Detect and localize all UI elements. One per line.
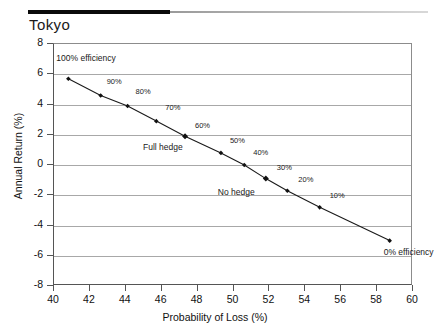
data-point-label: 0% efficiency bbox=[384, 247, 434, 257]
data-point[interactable] bbox=[387, 238, 392, 243]
header-rule-dark bbox=[28, 10, 170, 14]
x-tick-label: 50 bbox=[220, 293, 246, 305]
data-point-label: 20% bbox=[298, 175, 313, 184]
data-point[interactable] bbox=[154, 119, 159, 124]
x-tick bbox=[197, 285, 198, 291]
y-tick-label: -8 bbox=[17, 278, 43, 290]
header-rule-light bbox=[170, 11, 428, 13]
y-tick-label: -6 bbox=[17, 248, 43, 260]
page-title: Tokyo bbox=[29, 16, 70, 33]
data-point-label: 80% bbox=[136, 87, 151, 96]
x-tick bbox=[125, 285, 126, 291]
x-tick-label: 60 bbox=[399, 293, 425, 305]
x-tick bbox=[412, 285, 413, 291]
x-tick bbox=[53, 285, 54, 291]
x-tick bbox=[268, 285, 269, 291]
x-tick bbox=[89, 285, 90, 291]
data-point[interactable] bbox=[263, 176, 269, 182]
data-point[interactable] bbox=[66, 76, 71, 81]
annotation-label: Full hedge bbox=[143, 142, 183, 152]
data-point-label: 40% bbox=[253, 148, 268, 157]
x-tick-label: 40 bbox=[40, 293, 66, 305]
x-tick-label: 44 bbox=[112, 293, 138, 305]
header-rule bbox=[28, 10, 428, 14]
data-point-label: 10% bbox=[330, 191, 345, 200]
y-tick-label: -4 bbox=[17, 218, 43, 230]
data-point[interactable] bbox=[317, 205, 322, 210]
data-point-label: 60% bbox=[195, 121, 210, 130]
x-axis-title: Probability of Loss (%) bbox=[0, 311, 430, 323]
data-point-label: 70% bbox=[165, 103, 180, 112]
x-tick-label: 58 bbox=[363, 293, 389, 305]
data-point-label: 100% efficiency bbox=[56, 53, 115, 63]
y-tick-label: 2 bbox=[17, 127, 43, 139]
y-tick-label: 4 bbox=[17, 97, 43, 109]
x-tick-label: 52 bbox=[255, 293, 281, 305]
series-line bbox=[68, 79, 389, 241]
x-tick-label: 54 bbox=[291, 293, 317, 305]
x-tick bbox=[233, 285, 234, 291]
x-tick bbox=[340, 285, 341, 291]
data-point-label: 30% bbox=[277, 163, 292, 172]
data-point[interactable] bbox=[125, 104, 130, 109]
x-tick bbox=[304, 285, 305, 291]
data-point[interactable] bbox=[182, 133, 188, 139]
data-point[interactable] bbox=[285, 188, 290, 193]
x-tick-label: 48 bbox=[184, 293, 210, 305]
x-tick-label: 46 bbox=[148, 293, 174, 305]
x-tick bbox=[161, 285, 162, 291]
x-tick-label: 56 bbox=[327, 293, 353, 305]
y-tick-label: -2 bbox=[17, 187, 43, 199]
y-tick-label: 8 bbox=[17, 36, 43, 48]
data-point-label: 90% bbox=[107, 77, 122, 86]
data-point-label: 50% bbox=[230, 136, 245, 145]
x-tick bbox=[376, 285, 377, 291]
y-tick-label: 6 bbox=[17, 66, 43, 78]
plot-area: 100% efficiency90%80%70%60%50%40%30%20%1… bbox=[53, 43, 412, 285]
annotation-label: No hedge bbox=[218, 187, 255, 197]
y-tick-label: 0 bbox=[17, 157, 43, 169]
data-point[interactable] bbox=[219, 151, 224, 156]
x-tick-label: 42 bbox=[76, 293, 102, 305]
data-point[interactable] bbox=[98, 93, 103, 98]
